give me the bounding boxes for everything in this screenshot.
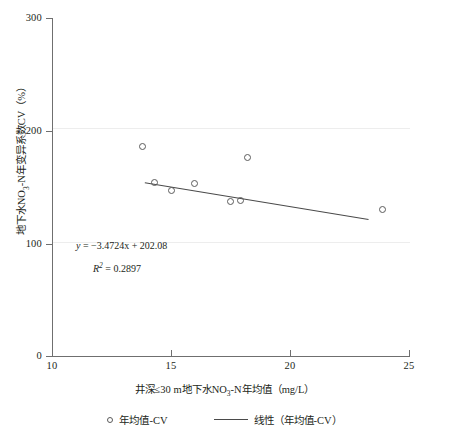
x-tick-label-10: 10 [32,360,72,371]
y-title-middle: -N年变异系数CV（%） [16,82,27,186]
x-axis-line [52,356,410,357]
trendline-svg [52,18,409,356]
data-point [244,154,251,161]
y-title-subscript: 3 [22,186,31,190]
scatter-chart-figure: 300 200 100 0 10 15 20 25 y = −3.4724x +… [0,0,449,438]
x-axis-title: 井深≤30 m地下水NO3-N年均值（mg/L） [0,381,449,398]
data-point [168,187,175,194]
y-title-prefix: 地下水NO [16,190,27,235]
equation-body: = −3.4724x + 202.08 [80,240,167,251]
chart-legend: 年均值-CV 线性（年均值-CV） [0,412,449,427]
x-tick-label-20: 20 [270,360,310,371]
data-point [151,179,158,186]
legend-item-scatter: 年均值-CV [107,412,167,427]
r2-value: = 0.2897 [103,263,141,274]
circle-marker-icon [107,417,113,423]
y-tick-0 [46,356,52,357]
r-squared-annotation: R2 = 0.2897 [93,261,141,274]
x-title-middle: -N年均值（mg/L） [231,384,315,395]
legend-item-trendline: 线性（年均值-CV） [214,412,342,427]
plot-area [52,18,409,356]
legend-label-trendline: 线性（年均值-CV） [254,412,342,427]
x-tick-25 [409,350,410,356]
x-title-prefix: 井深≤30 m地下水NO [135,384,227,395]
x-tick-label-15: 15 [151,360,191,371]
y-axis-title: 地下水NO3-N年变异系数CV（%） [13,19,30,299]
trendline [145,183,369,220]
x-tick-label-25: 25 [389,360,429,371]
data-point [139,143,146,150]
legend-label-scatter: 年均值-CV [119,412,167,427]
line-marker-icon [214,419,248,420]
data-point [237,197,244,204]
regression-equation: y = −3.4724x + 202.08 [76,240,167,251]
